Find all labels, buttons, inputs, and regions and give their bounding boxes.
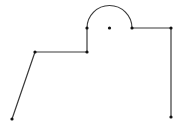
vertex-point-p6 — [169, 26, 172, 29]
diagram-canvas — [0, 0, 183, 132]
line-segment-p1-p2 — [12, 52, 35, 119]
arc-center-point — [108, 26, 111, 29]
vertex-point-p1 — [10, 117, 13, 120]
vertex-point-p3 — [85, 50, 88, 53]
vertex-point-p7 — [169, 115, 172, 118]
polyline-segments — [12, 6, 171, 120]
vertex-point-p2 — [33, 50, 36, 53]
semicircle-arc — [87, 6, 132, 29]
vertex-points — [10, 26, 172, 120]
vertex-point-p4 — [85, 26, 88, 29]
vertex-point-p5 — [130, 26, 133, 29]
